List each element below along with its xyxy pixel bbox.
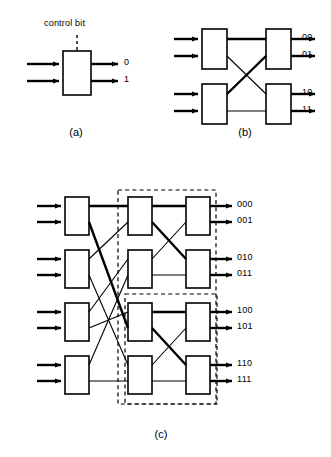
network-figure: control bit 0 1 (a) 00 01 10 11 (b) 000 … [0,0,331,457]
switch-box-b-s2-1 [266,84,291,124]
output-label-c-001: 001 [237,215,253,225]
panel-a-group [27,35,118,95]
panel-caption-a: (a) [46,126,106,138]
output-label-c-000: 000 [237,199,253,209]
output-label-b-11: 11 [302,104,312,114]
switch-box-a1 [63,51,91,95]
output-label-c-100: 100 [237,305,253,315]
switch-box-c-s3-2 [186,303,210,341]
output-label-a-1: 1 [124,74,129,84]
output-label-b-01: 01 [302,49,313,59]
panel-caption-b: (b) [215,126,275,138]
output-label-b-10: 10 [302,87,313,97]
link-c-s1-2a [89,259,128,312]
switch-box-c-s2-1 [128,250,152,288]
switch-box-c-s1-3 [65,356,89,394]
control-bit-label: control bit [44,18,85,28]
switch-box-b-s1-0 [202,29,227,69]
switch-box-c-s2-3 [128,356,152,394]
switch-box-b-s2-0 [266,29,291,69]
switch-box-c-s2-0 [128,197,152,235]
switch-box-c-s3-3 [186,356,210,394]
output-label-a-0: 0 [124,57,129,67]
panel-caption-c: (c) [131,428,191,440]
panel-c-group [37,190,232,404]
switch-box-c-s2-2 [128,303,152,341]
output-label-c-110: 110 [237,358,252,368]
switch-box-c-s1-0 [65,197,89,235]
switch-box-c-s3-1 [186,250,210,288]
output-label-c-101: 101 [237,321,253,331]
figure-canvas [0,0,331,457]
switch-box-b-s1-1 [202,84,227,124]
output-label-c-011: 011 [237,268,252,278]
switch-box-c-s1-1 [65,250,89,288]
output-label-c-111: 111 [237,374,252,384]
output-label-b-00: 00 [302,32,313,42]
output-label-c-010: 010 [237,252,253,262]
switch-box-c-s3-0 [186,197,210,235]
switch-box-c-s1-2 [65,303,89,341]
panel-b-group [174,29,315,124]
link-c-s1-0b [89,222,128,328]
